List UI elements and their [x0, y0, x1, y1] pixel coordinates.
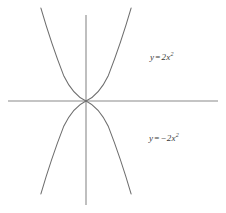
- annotation-label-upward-parabola: y=2x2: [150, 52, 174, 62]
- annotation-exponent: 2: [170, 51, 173, 57]
- annotation-expression: −2x: [160, 133, 175, 143]
- plot-canvas: [0, 0, 226, 213]
- annotation-label-downward-parabola: y=−2x2: [149, 133, 179, 143]
- annotation-exponent: 2: [176, 132, 179, 138]
- parabola-figure: y=2x2 y=−2x2: [0, 0, 226, 213]
- axes-group: [8, 15, 218, 205]
